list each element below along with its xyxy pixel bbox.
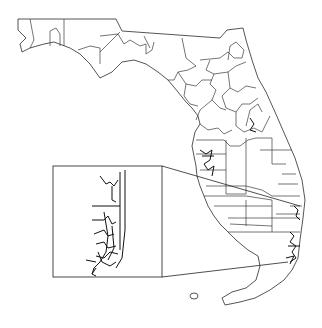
- island: [190, 293, 198, 299]
- inset-connector-top: [162, 166, 300, 206]
- inset-connector-bottom: [162, 262, 288, 277]
- inset-map: [53, 166, 162, 277]
- florida-map: [0, 0, 322, 328]
- inset-frame: [53, 166, 162, 277]
